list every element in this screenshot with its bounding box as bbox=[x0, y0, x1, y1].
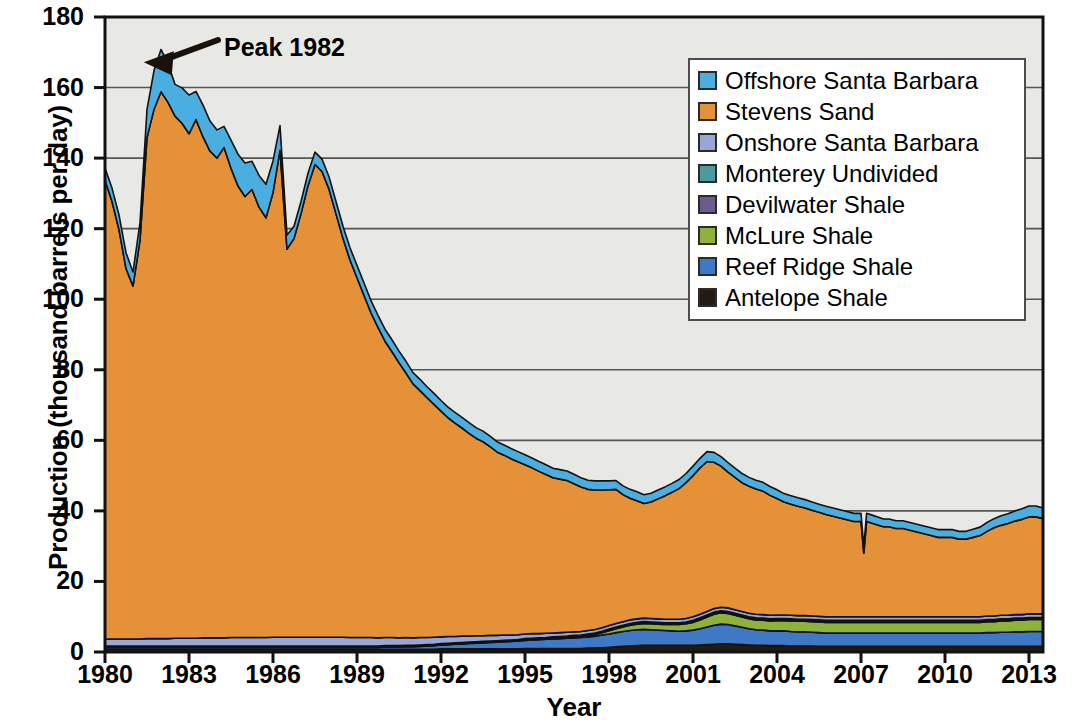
legend-label: Onshore Santa Barbara bbox=[725, 131, 979, 155]
legend-label: McLure Shale bbox=[725, 224, 873, 248]
y-tick-label: 20 bbox=[0, 568, 84, 593]
legend-swatch-icon bbox=[698, 257, 717, 276]
y-tick-label: 160 bbox=[0, 75, 84, 100]
legend-swatch-icon bbox=[698, 195, 717, 214]
x-tick-label: 1983 bbox=[144, 662, 234, 687]
y-tick-label: 120 bbox=[0, 216, 84, 241]
legend-swatch-icon bbox=[698, 288, 717, 307]
x-tick-label: 2010 bbox=[900, 662, 990, 687]
x-tick-label: 2001 bbox=[648, 662, 738, 687]
legend-item[interactable]: Onshore Santa Barbara bbox=[698, 127, 1014, 158]
y-tick-label: 180 bbox=[0, 4, 84, 29]
legend-label: Offshore Santa Barbara bbox=[725, 69, 978, 93]
y-tick-label: 80 bbox=[0, 357, 84, 382]
legend-item[interactable]: Reef Ridge Shale bbox=[698, 251, 1014, 282]
chart-legend: Offshore Santa BarbaraStevens SandOnshor… bbox=[688, 58, 1026, 321]
legend-label: Monterey Undivided bbox=[725, 162, 938, 186]
legend-item[interactable]: Stevens Sand bbox=[698, 96, 1014, 127]
y-tick-label: 40 bbox=[0, 498, 84, 523]
legend-swatch-icon bbox=[698, 71, 717, 90]
legend-item[interactable]: Offshore Santa Barbara bbox=[698, 65, 1014, 96]
x-tick-label: 1989 bbox=[312, 662, 402, 687]
x-tick-label: 2004 bbox=[732, 662, 822, 687]
legend-swatch-icon bbox=[698, 226, 717, 245]
y-tick-label: 0 bbox=[0, 639, 84, 664]
legend-label: Stevens Sand bbox=[725, 100, 874, 124]
legend-item[interactable]: Devilwater Shale bbox=[698, 189, 1014, 220]
legend-swatch-icon bbox=[698, 164, 717, 183]
y-tick-label: 60 bbox=[0, 427, 84, 452]
x-tick-label: 1995 bbox=[480, 662, 570, 687]
legend-label: Antelope Shale bbox=[725, 286, 888, 310]
y-tick-label: 140 bbox=[0, 145, 84, 170]
legend-swatch-icon bbox=[698, 133, 717, 152]
legend-label: Devilwater Shale bbox=[725, 193, 905, 217]
legend-item[interactable]: McLure Shale bbox=[698, 220, 1014, 251]
legend-swatch-icon bbox=[698, 102, 717, 121]
x-tick-label: 2007 bbox=[816, 662, 906, 687]
y-tick-label: 100 bbox=[0, 286, 84, 311]
x-tick-label: 1986 bbox=[228, 662, 318, 687]
peak-annotation-label: Peak 1982 bbox=[224, 33, 345, 62]
x-tick-label: 1992 bbox=[396, 662, 486, 687]
legend-item[interactable]: Antelope Shale bbox=[698, 282, 1014, 313]
x-tick-label: 1998 bbox=[564, 662, 654, 687]
x-tick-label: 2013 bbox=[984, 662, 1074, 687]
stacked-area-chart: Production (thousand barrels per day) Ye… bbox=[0, 0, 1076, 726]
legend-item[interactable]: Monterey Undivided bbox=[698, 158, 1014, 189]
x-tick-label: 1980 bbox=[60, 662, 150, 687]
legend-label: Reef Ridge Shale bbox=[725, 255, 913, 279]
